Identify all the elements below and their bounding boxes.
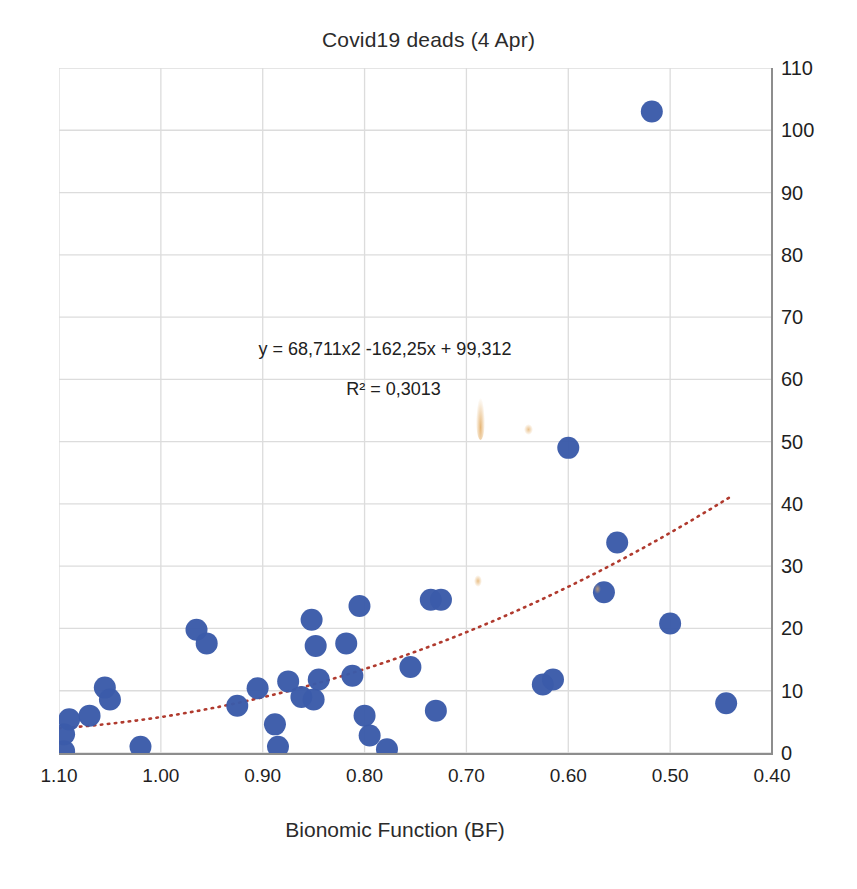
data-point bbox=[226, 695, 248, 717]
y-axis-tick-label: 70 bbox=[781, 306, 803, 329]
x-axis-title: Bionomic Function (BF) bbox=[0, 818, 790, 842]
plot-area bbox=[59, 68, 772, 753]
data-point bbox=[606, 532, 628, 554]
data-point bbox=[303, 688, 325, 710]
data-point bbox=[196, 632, 218, 654]
data-point bbox=[79, 705, 101, 727]
data-point bbox=[247, 677, 269, 699]
plot-canvas bbox=[59, 68, 772, 753]
data-point bbox=[659, 612, 681, 634]
y-axis-tick-label: 0 bbox=[781, 742, 792, 765]
horizontal-gridlines bbox=[59, 68, 772, 753]
x-axis-tick-label: 0.40 bbox=[754, 765, 791, 787]
data-point bbox=[425, 700, 447, 722]
x-axis-tick-label: 1.10 bbox=[41, 765, 78, 787]
data-point bbox=[348, 595, 370, 617]
r-squared-label: R² = 0,3013 bbox=[0, 379, 787, 400]
x-axis-tick-label: 0.70 bbox=[448, 765, 485, 787]
data-point bbox=[99, 688, 121, 710]
trendline-dotted bbox=[59, 496, 731, 728]
data-point bbox=[542, 669, 564, 691]
data-point bbox=[354, 705, 376, 727]
data-point bbox=[399, 656, 421, 678]
y-axis-tick-label: 80 bbox=[781, 243, 803, 266]
chart-root: Covid19 deads (4 Apr) 010203040506070809… bbox=[0, 0, 857, 889]
trendline-equation-label: y = 68,711x2 -162,25x + 99,312 bbox=[0, 339, 770, 360]
data-point bbox=[341, 665, 363, 687]
y-axis-tick-label: 50 bbox=[781, 430, 803, 453]
y-axis-tick-label: 30 bbox=[781, 555, 803, 578]
vertical-gridlines bbox=[59, 68, 772, 753]
chart-title: Covid19 deads (4 Apr) bbox=[0, 28, 857, 52]
data-point bbox=[593, 581, 615, 603]
data-point bbox=[715, 692, 737, 714]
data-point bbox=[264, 713, 286, 735]
data-point bbox=[359, 725, 381, 747]
x-axis-tick-label: 0.50 bbox=[652, 765, 689, 787]
y-axis-tick-label: 20 bbox=[781, 617, 803, 640]
data-point bbox=[430, 589, 452, 611]
x-axis-tick-label: 1.00 bbox=[142, 765, 179, 787]
y-axis-tick-label: 90 bbox=[781, 181, 803, 204]
data-point bbox=[267, 736, 289, 753]
x-axis-tick-label: 0.60 bbox=[550, 765, 587, 787]
data-point bbox=[59, 708, 80, 730]
y-axis-tick-label: 40 bbox=[781, 492, 803, 515]
data-point bbox=[308, 669, 330, 691]
y-axis-tick-label: 10 bbox=[781, 679, 803, 702]
data-point bbox=[641, 101, 663, 123]
data-point bbox=[557, 437, 579, 459]
y-axis-tick-label: 100 bbox=[781, 119, 814, 142]
x-axis-tick-label: 0.90 bbox=[244, 765, 281, 787]
data-point bbox=[129, 736, 151, 753]
data-point bbox=[335, 632, 357, 654]
data-point bbox=[301, 609, 323, 631]
x-axis-line bbox=[59, 753, 773, 755]
y-axis-tick-label: 110 bbox=[781, 57, 813, 80]
y-axis-line bbox=[771, 68, 773, 755]
x-axis-tick-label: 0.80 bbox=[346, 765, 383, 787]
data-point bbox=[305, 635, 327, 657]
